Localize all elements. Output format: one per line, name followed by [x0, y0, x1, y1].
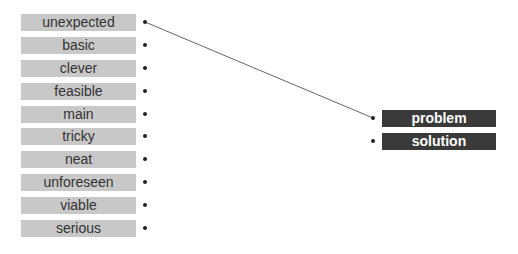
word-box-tricky[interactable]: tricky: [21, 128, 136, 145]
word-box-main[interactable]: main: [21, 106, 136, 123]
word-box-clever[interactable]: clever: [21, 60, 136, 77]
word-box-unexpected[interactable]: unexpected: [21, 14, 136, 31]
connector-dot[interactable]: [143, 20, 147, 24]
connection-unexpected-problem: [145, 22, 373, 118]
word-box-unforeseen[interactable]: unforeseen: [21, 174, 136, 191]
connector-dot[interactable]: [143, 66, 147, 70]
word-box-serious[interactable]: serious: [21, 220, 136, 237]
connector-dot[interactable]: [143, 180, 147, 184]
word-box-feasible[interactable]: feasible: [21, 83, 136, 100]
connector-dot[interactable]: [143, 134, 147, 138]
connector-dot[interactable]: [143, 112, 147, 116]
connector-dot[interactable]: [371, 116, 375, 120]
word-box-neat[interactable]: neat: [21, 151, 136, 168]
target-box-solution[interactable]: solution: [382, 133, 496, 150]
connector-dot[interactable]: [143, 89, 147, 93]
word-box-basic[interactable]: basic: [21, 37, 136, 54]
connector-dot[interactable]: [143, 226, 147, 230]
connector-dot[interactable]: [143, 203, 147, 207]
connector-dot[interactable]: [143, 43, 147, 47]
word-box-viable[interactable]: viable: [21, 197, 136, 214]
target-box-problem[interactable]: problem: [382, 110, 496, 127]
connector-dot[interactable]: [371, 139, 375, 143]
connector-dot[interactable]: [143, 157, 147, 161]
